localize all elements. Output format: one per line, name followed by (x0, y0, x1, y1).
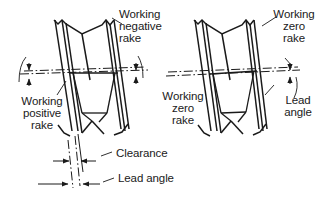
label-line: negative (119, 20, 162, 32)
label-line: rake (6, 119, 78, 131)
label-line: Lead angle (118, 172, 174, 184)
right-workpiece-section (210, 71, 257, 122)
label-line: Working (119, 8, 162, 20)
left-clearance-dimension (38, 134, 100, 188)
label-line: Clearance (116, 147, 168, 159)
label-line: rake (119, 32, 162, 44)
label-working-positive-rake: Working positive rake (6, 95, 78, 132)
label-line: Working (152, 90, 214, 102)
label-line: Lead (274, 94, 322, 106)
left-positive-rake-angle-arrows (19, 57, 29, 86)
label-line: Working (262, 8, 326, 20)
label-line: Working (6, 95, 78, 107)
label-line: rake (262, 32, 326, 44)
label-working-zero-rake-mid: Working zero rake (152, 90, 214, 127)
label-line: rake (152, 114, 214, 126)
label-working-negative-rake: Working negative rake (119, 8, 162, 45)
label-lead-angle-right: Lead angle (274, 94, 322, 118)
label-line: zero (262, 20, 326, 32)
label-line: positive (6, 107, 78, 119)
label-line: angle (274, 106, 322, 118)
label-lead-angle-bottom: Lead angle (118, 172, 174, 184)
label-clearance: Clearance (116, 147, 168, 159)
diagram-canvas: Working negative rake Working positive r… (0, 0, 327, 201)
label-line: zero (152, 102, 214, 114)
label-working-zero-rake-top: Working zero rake (262, 8, 326, 45)
